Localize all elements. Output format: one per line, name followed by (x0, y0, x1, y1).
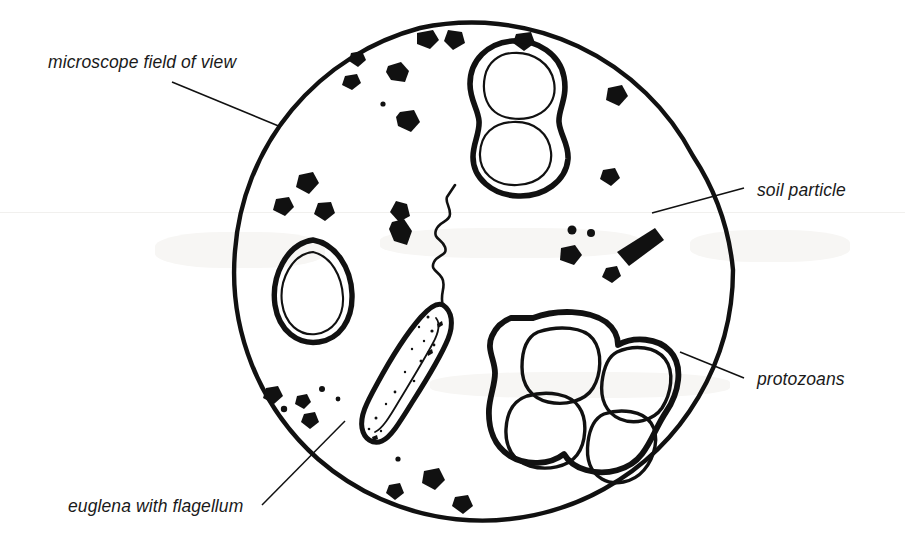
soil-particle (617, 228, 664, 266)
leader-line (262, 421, 345, 505)
soil-particle (587, 229, 595, 237)
soil-particle (606, 85, 628, 106)
soil-particle (263, 386, 283, 404)
protozoan-dividing-pair (470, 41, 568, 196)
soil-particle (386, 62, 409, 82)
soil-particle (281, 406, 287, 412)
soil-particle (296, 172, 319, 194)
soil-particle (342, 74, 361, 90)
soil-particle (336, 397, 341, 402)
label-euglena-with-flagellum: euglena with flagellum (68, 421, 345, 516)
flagellum (433, 185, 455, 306)
soil-particle (417, 30, 439, 49)
soil-particle (444, 30, 465, 50)
protozoan-cell-top-left (522, 328, 600, 403)
soil-particle (301, 412, 319, 429)
soil-particle (568, 226, 577, 235)
label-soil-particle: soil particle (652, 180, 846, 213)
leader-line (652, 188, 744, 213)
soil-particle (600, 168, 620, 186)
soil-particle (602, 266, 621, 283)
protozoan-inner-membrane-lower (480, 122, 551, 185)
soil-particle (314, 202, 335, 221)
soil-particle (319, 386, 325, 392)
soil-particle (273, 197, 294, 216)
protozoan-cluster-outer-wall (489, 312, 679, 472)
illustration-page: microscope field of view soil particle p… (0, 0, 905, 550)
microscope-field-illustration: microscope field of view soil particle p… (0, 0, 905, 550)
protozoan-outer-wall (274, 240, 352, 342)
label-text: protozoans (756, 369, 845, 389)
label-text: microscope field of view (48, 52, 237, 72)
protozoan-inner-membrane (282, 252, 343, 334)
soil-particle (395, 456, 400, 461)
label-text: euglena with flagellum (68, 496, 243, 516)
label-microscope-field-of-view: microscope field of view (48, 52, 281, 127)
soil-particle (560, 245, 582, 265)
leader-line (172, 82, 281, 127)
protozoan-inner-membrane-upper (484, 53, 555, 119)
soil-particle (396, 110, 420, 132)
soil-particle-group (263, 30, 664, 514)
soil-particle (295, 394, 311, 409)
soil-particle (422, 468, 445, 490)
soil-particle (390, 201, 410, 222)
label-text: soil particle (757, 180, 846, 200)
protozoan-single-oval (274, 240, 352, 342)
soil-particle (389, 219, 412, 245)
soil-particle (349, 51, 366, 67)
soil-particle (452, 495, 473, 514)
soil-particle (380, 101, 385, 106)
euglena (362, 185, 455, 442)
field-of-view-circle (234, 23, 733, 521)
soil-particle (386, 483, 404, 500)
